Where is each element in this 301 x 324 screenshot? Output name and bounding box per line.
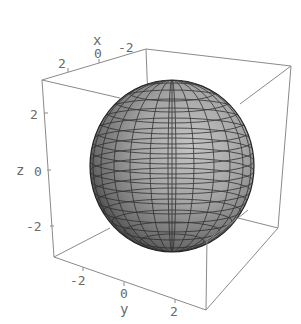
x-tick-2: 2 [58, 56, 66, 71]
y-axis-label: y [120, 301, 128, 317]
x-tick-0: 0 [94, 46, 102, 61]
x-tick-neg2: -2 [118, 40, 134, 55]
sphere-3d-plot: x 2 0 -2 z 2 0 -2 -2 0 y 2 [0, 0, 301, 324]
z-axis-label: z [16, 162, 24, 178]
y-tick-0: 0 [120, 286, 128, 301]
sphere-surface [90, 80, 254, 252]
z-tick-2: 2 [30, 107, 38, 122]
y-tick-neg2: -2 [70, 273, 86, 288]
z-tick-0: 0 [34, 164, 42, 179]
y-tick-2: 2 [170, 304, 178, 319]
z-tick-neg2: -2 [26, 219, 42, 234]
